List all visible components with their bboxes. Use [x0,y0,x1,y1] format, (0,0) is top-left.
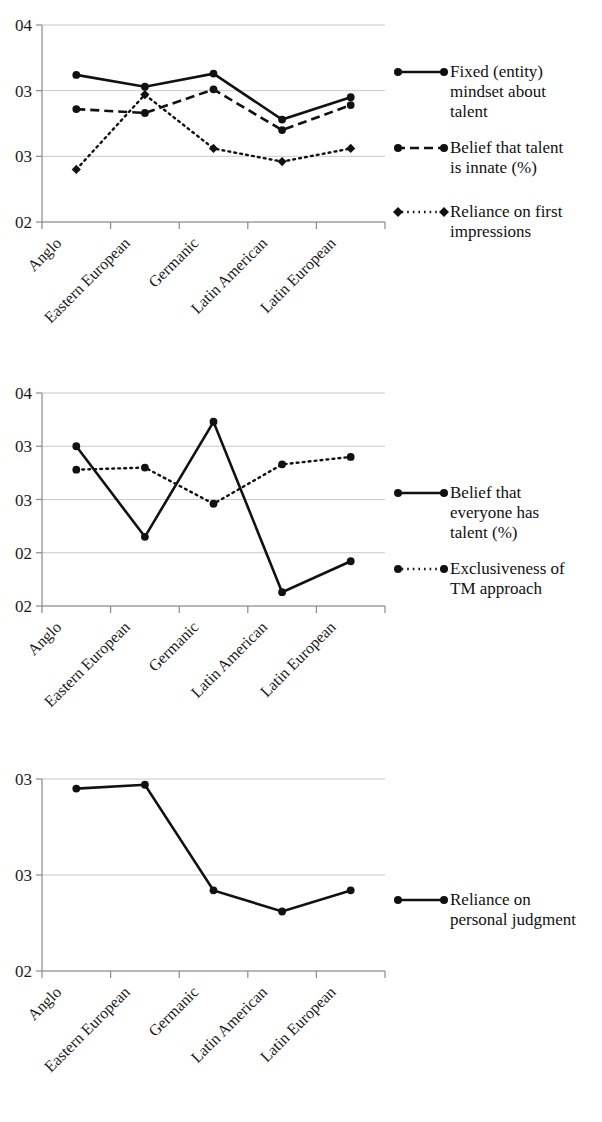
data-point-marker [72,442,80,450]
x-category-label: Anglo [24,234,65,275]
data-point-marker [347,93,355,101]
y-tick-label: 02 [15,213,32,232]
chart-panel-3: 030302AngloEastern EuropeanGermanicLatin… [0,750,602,1122]
series-line [76,74,350,120]
chart-3-legend: Reliance on personal judgment [392,890,602,932]
data-point-marker [72,785,80,793]
y-tick-label: 03 [15,437,32,456]
data-point-marker [72,71,80,79]
legend-item: Fixed (entity) mindset about talent [392,62,602,122]
data-point-marker [347,886,355,894]
legend-key-solid-circle [392,483,450,503]
data-point-marker [72,165,81,174]
legend-label: Reliance on personal judgment [450,890,576,930]
legend-key-dashed-circle [392,138,450,158]
chart-3-plot: 030302AngloEastern EuropeanGermanicLatin… [0,750,400,1120]
data-point-marker [346,144,355,153]
legend-item: Belief that talent is innate (%) [392,138,602,178]
x-category-label: Germanic [145,618,202,675]
y-tick-label: 02 [15,962,32,981]
y-tick-label: 02 [15,544,32,563]
x-category-label: Anglo [24,983,65,1024]
x-category-label: Anglo [24,618,65,659]
legend-key-solid-circle [392,890,450,910]
data-point-marker [278,157,287,166]
y-tick-label: 04 [15,384,33,403]
data-point-marker [347,557,355,565]
y-tick-label: 03 [15,770,32,789]
y-tick-label: 02 [15,597,32,616]
data-point-marker [141,533,149,541]
y-tick-label: 03 [15,82,32,101]
y-tick-label: 04 [15,16,33,35]
chart-panel-2: 0403030202AngloEastern EuropeanGermanicL… [0,375,602,750]
y-tick-label: 03 [15,147,32,166]
legend-label: Reliance on first impressions [450,202,562,242]
data-point-marker [210,886,218,894]
legend-item: Reliance on personal judgment [392,890,602,930]
legend-key-solid-circle [392,62,450,82]
data-point-marker [141,464,149,472]
chart-1-legend: Fixed (entity) mindset about talent Beli… [392,62,602,244]
data-point-marker [278,116,286,124]
legend-item: Belief that everyone has talent (%) [392,483,602,543]
data-point-marker [347,453,355,461]
legend-item: Exclusiveness of TM approach [392,559,602,599]
data-point-marker [141,781,149,789]
legend-key-dotted-diamond [392,202,450,222]
data-point-marker [210,500,218,508]
data-point-marker [278,126,286,134]
data-point-marker [278,588,286,596]
legend-label: Exclusiveness of TM approach [450,559,565,599]
chart-1-plot: 04030302AngloEastern EuropeanGermanicLat… [0,0,400,350]
data-point-marker [141,83,149,91]
data-point-marker [278,908,286,916]
legend-label: Fixed (entity) mindset about talent [450,62,546,122]
chart-2-legend: Belief that everyone has talent (%) Excl… [392,483,602,601]
data-point-marker [347,101,355,109]
legend-item: Reliance on first impressions [392,202,602,242]
data-point-marker [72,105,80,113]
data-point-marker [210,85,218,93]
series-line [76,95,350,170]
legend-label: Belief that everyone has talent (%) [450,483,539,543]
y-tick-label: 03 [15,866,32,885]
x-category-label: Germanic [145,983,202,1040]
chart-panel-1: 04030302AngloEastern EuropeanGermanicLat… [0,0,602,375]
data-point-marker [210,418,218,426]
data-point-marker [210,70,218,78]
legend-label: Belief that talent is innate (%) [450,138,563,178]
data-point-marker [209,144,218,153]
data-point-marker [278,460,286,468]
y-tick-label: 03 [15,491,32,510]
chart-2-plot: 0403030202AngloEastern EuropeanGermanicL… [0,375,400,735]
x-category-label: Germanic [145,234,202,291]
data-point-marker [141,109,149,117]
series-line [76,457,350,504]
data-point-marker [72,466,80,474]
legend-key-dotted-circle [392,559,450,579]
